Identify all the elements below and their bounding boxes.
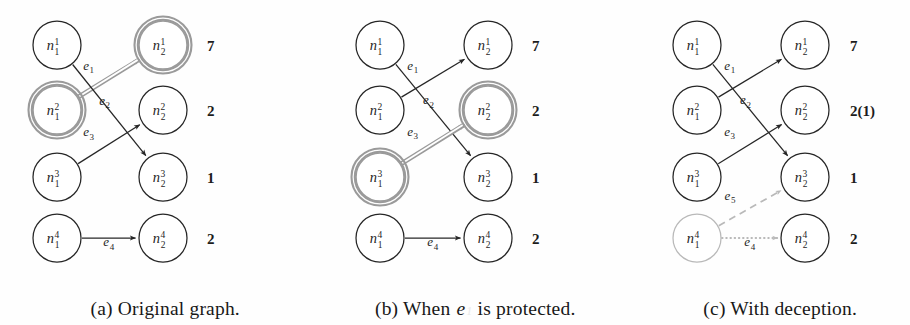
node-weight-label: 2: [532, 103, 540, 119]
panel-b-canvas: e1e2e3e4n11n21n31n41n12n22n32n427212: [300, 0, 620, 276]
panel-protected-edge: e1e2e3e4n11n21n31n41n12n22n32n427212 (b)…: [300, 0, 620, 325]
graph-node-n1-4[interactable]: n41: [33, 214, 81, 262]
edge-label: e4: [427, 234, 438, 252]
node-weight-label: 2: [532, 231, 540, 247]
caption-prefix: (b): [375, 298, 398, 319]
graph-node-n1-2[interactable]: n21: [673, 86, 721, 134]
figure-root: e1e2e3e4n11n21n31n41n12n22n32n427212 (a)…: [0, 0, 910, 325]
panel-a-caption: (a) Original graph.: [0, 276, 300, 325]
graph-node-n2-3[interactable]: n32: [139, 153, 187, 201]
graph-node-n2-4[interactable]: n42: [139, 214, 187, 262]
caption-body-before: When: [403, 298, 455, 319]
edge-label: e3: [407, 124, 418, 142]
caption-body-after: is protected.: [473, 298, 576, 319]
edge-label: e4: [103, 234, 114, 252]
graph-node-n1-1[interactable]: n11: [673, 21, 721, 69]
panel-c-canvas: e1e2e3e5e4n11n21n31n41n12n22n32n4272(1)1…: [620, 0, 910, 276]
graph-node-n1-2[interactable]: n21: [29, 82, 86, 139]
node-weight-label: 2: [207, 231, 215, 247]
caption-body: With deception.: [730, 298, 857, 319]
node-weight-label: 1: [850, 170, 858, 186]
graph-node-n2-1[interactable]: n12: [135, 17, 192, 74]
graph-node-n1-3[interactable]: n31: [352, 149, 409, 206]
graph-node-n2-2[interactable]: n22: [781, 86, 829, 134]
node-weight-label: 2(1): [850, 103, 875, 120]
caption-edge-symbol: e: [455, 298, 466, 319]
graph-node-n1-1[interactable]: n11: [356, 21, 404, 69]
graph-node-n1-4[interactable]: n41: [356, 214, 404, 262]
graph-node-n2-1[interactable]: n12: [464, 21, 512, 69]
graph-node-n2-3[interactable]: n32: [781, 153, 829, 201]
graph-node-n2-2[interactable]: n22: [460, 82, 517, 139]
graph-node-n1-3[interactable]: n31: [673, 153, 721, 201]
panel-original-graph: e1e2e3e4n11n21n31n41n12n22n32n427212 (a)…: [0, 0, 300, 325]
node-weight-label: 7: [532, 38, 540, 54]
graph-node-n2-3[interactable]: n32: [464, 153, 512, 201]
edge-label: e2: [423, 92, 434, 110]
edge-label: e1: [407, 58, 418, 76]
graph-node-n2-2[interactable]: n22: [139, 86, 187, 134]
edge-label: e1: [83, 58, 94, 76]
graph-node-n1-1[interactable]: n11: [33, 21, 81, 69]
graph-node-n1-4[interactable]: n41: [673, 214, 721, 262]
edge-label: e2: [99, 93, 110, 111]
graph-node-n2-4[interactable]: n42: [464, 214, 512, 262]
graph-node-n2-1[interactable]: n12: [781, 21, 829, 69]
panel-b-caption: (b) When e1 is protected.: [300, 276, 620, 325]
caption-prefix: (a): [90, 298, 112, 319]
caption-body: Original graph.: [118, 298, 240, 319]
edge-label: e3: [83, 124, 94, 142]
edge-label: e4: [744, 234, 755, 252]
node-weight-label: 2: [850, 231, 858, 247]
caption-prefix: (c): [703, 298, 725, 319]
node-weight-label: 2: [207, 103, 215, 119]
edge-label: e5: [725, 188, 736, 206]
panel-a-canvas: e1e2e3e4n11n21n31n41n12n22n32n427212: [0, 0, 300, 276]
panel-with-deception: e1e2e3e5e4n11n21n31n41n12n22n32n4272(1)1…: [620, 0, 910, 325]
node-weight-label: 1: [207, 170, 215, 186]
node-weight-label: 7: [207, 38, 215, 54]
edge-label: e2: [740, 92, 751, 110]
graph-node-n2-4[interactable]: n42: [781, 214, 829, 262]
graph-node-n1-2[interactable]: n21: [356, 86, 404, 134]
node-weight-label: 1: [532, 170, 540, 186]
edge-label: e1: [724, 58, 735, 76]
node-weight-label: 7: [850, 38, 858, 54]
panel-c-caption: (c) With deception.: [620, 276, 910, 325]
graph-node-n1-3[interactable]: n31: [33, 153, 81, 201]
edge-label: e3: [724, 124, 735, 142]
